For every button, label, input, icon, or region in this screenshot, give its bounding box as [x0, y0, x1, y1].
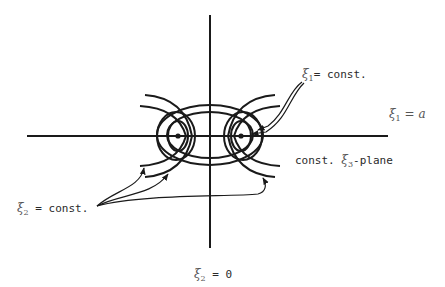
hyperbola-left-lower-inner	[140, 136, 186, 166]
xi2-const-label: ξ2 = const.	[17, 202, 88, 217]
xi2-leader-arrow-2	[97, 174, 168, 206]
vertical-axis-label: ξ2 = 0	[194, 268, 232, 283]
right-focus-dot	[238, 133, 243, 138]
elliptic-coordinates-diagram	[0, 0, 445, 287]
horizontal-axis-label: ξ1 = a	[389, 108, 426, 123]
xi3-plane-label: const. ξ3-plane	[295, 154, 393, 169]
xi1-const-label: ξ1= const.	[302, 68, 367, 83]
xi2-leader-arrow-1	[97, 168, 144, 206]
left-focus-dot	[175, 133, 180, 138]
xi2-leader-arrow-3	[97, 178, 265, 206]
